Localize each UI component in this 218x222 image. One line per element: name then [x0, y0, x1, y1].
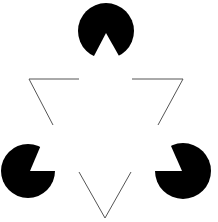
pacman-wedge-1: [30, 93, 105, 171]
pacman-wedge-2: [104, 96, 182, 171]
triangle-corner-2: [79, 172, 131, 218]
kanizsa-figure: [0, 0, 218, 222]
